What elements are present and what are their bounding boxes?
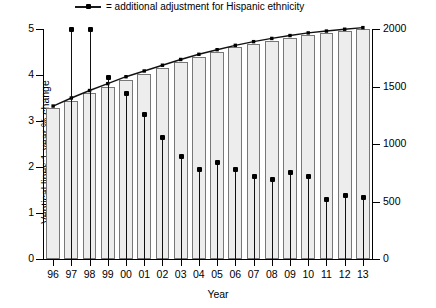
x-axis-tick: [53, 260, 54, 266]
one-year-change-dot: [270, 177, 275, 182]
one-year-change-line: [308, 176, 309, 259]
y-axis-left-tick: [36, 167, 43, 168]
one-year-change-line: [363, 197, 364, 259]
y-axis-right-tick: [373, 202, 380, 203]
one-year-change-line: [254, 176, 255, 259]
y-axis-left-tick: [36, 29, 43, 30]
one-year-change-dot: [324, 197, 329, 202]
x-axis-tick: [217, 260, 218, 266]
one-year-change-dot: [88, 27, 93, 32]
adjustment-line-path: [53, 28, 363, 106]
adjustment-line-dot: [124, 75, 127, 78]
one-year-change-line: [199, 169, 200, 259]
one-year-change-line: [108, 77, 109, 259]
one-year-change-line: [90, 29, 91, 259]
x-axis-line: [36, 259, 380, 260]
one-year-change-line: [162, 137, 163, 259]
adjustment-line-dot: [361, 26, 364, 29]
one-year-change-dot: [197, 167, 202, 172]
adjustment-line-dot: [325, 29, 328, 32]
x-axis-tick: [290, 260, 291, 266]
y-axis-left-tick-label: 5: [0, 23, 34, 33]
legend-label: = additional adjustment for Hispanic eth…: [106, 1, 304, 13]
one-year-change-line: [126, 93, 127, 259]
y-axis-right-tick: [373, 29, 380, 30]
x-axis-tick: [126, 260, 127, 266]
legend-line-dot-icon: [75, 2, 101, 12]
y-axis-left-tick-label: 1: [0, 207, 34, 217]
x-axis-tick: [90, 260, 91, 266]
one-year-change-line: [345, 195, 346, 259]
x-axis-tick: [254, 260, 255, 266]
x-axis-tick: [181, 260, 182, 266]
one-year-change-dot: [124, 91, 129, 96]
x-axis-tick: [272, 260, 273, 266]
one-year-change-line: [144, 114, 145, 259]
y-axis-right-tick-label: 2000: [383, 23, 423, 33]
y-axis-left-tick-label: 4: [0, 69, 34, 79]
adjustment-line-dot: [343, 28, 346, 31]
y-axis-right-tick: [373, 144, 380, 145]
y-axis-right-tick-label: 500: [383, 196, 423, 206]
adjustment-line-dot: [215, 48, 218, 51]
one-year-change-dot: [306, 174, 311, 179]
adjustment-line-dot: [179, 58, 182, 61]
x-axis-tick-label: 13: [351, 268, 375, 280]
plot-area: [44, 29, 372, 259]
x-axis-tick: [144, 260, 145, 266]
one-year-change-dot: [343, 193, 348, 198]
y-axis-right-tick-label: 0: [383, 253, 423, 263]
adjustment-line-dot: [307, 31, 310, 34]
y-axis-left-tick-label: 0: [0, 253, 34, 263]
x-axis-title: Year: [0, 288, 436, 300]
one-year-change-dot: [288, 170, 293, 175]
x-axis-tick: [235, 260, 236, 266]
x-axis-tick: [363, 260, 364, 266]
x-axis-tick: [71, 260, 72, 266]
adjustment-line-dot: [143, 69, 146, 72]
adjustment-line-dot: [161, 64, 164, 67]
one-year-change-dot: [142, 112, 147, 117]
one-year-change-dot: [361, 195, 366, 200]
adjustment-line-dot: [51, 104, 54, 107]
y-axis-left-tick: [36, 259, 43, 260]
x-axis-tick: [162, 260, 163, 266]
y-axis-right-tick: [373, 87, 380, 88]
one-year-change-dot: [233, 167, 238, 172]
one-year-change-line: [235, 169, 236, 259]
adjustment-line-dot: [252, 40, 255, 43]
y-axis-right-tick-label: 1000: [383, 138, 423, 148]
adjustment-line-dot: [234, 44, 237, 47]
y-axis-left-tick-label: 3: [0, 115, 34, 125]
one-year-change-dot: [179, 154, 184, 159]
chart-figure: = additional adjustment for Hispanic eth…: [0, 0, 436, 308]
hispanic-adjustment-line: [44, 29, 372, 259]
y-axis-left-tick: [36, 121, 43, 122]
one-year-change-dot: [106, 75, 111, 80]
x-axis-tick: [108, 260, 109, 266]
adjustment-line-dot: [270, 37, 273, 40]
y-axis-right-tick-label: 1500: [383, 81, 423, 91]
one-year-change-line: [326, 199, 327, 259]
one-year-change-dot: [160, 135, 165, 140]
adjustment-line-dot: [288, 34, 291, 37]
one-year-change-line: [71, 29, 72, 259]
one-year-change-dot: [69, 27, 74, 32]
y-axis-right-tick: [373, 259, 380, 260]
y-axis-left-tick: [36, 75, 43, 76]
y-axis-left-tick-label: 2: [0, 161, 34, 171]
one-year-change-dot: [215, 160, 220, 165]
one-year-change-line: [181, 156, 182, 260]
one-year-change-line: [290, 172, 291, 259]
chart-legend: = additional adjustment for Hispanic eth…: [75, 1, 304, 13]
one-year-change-line: [217, 162, 218, 259]
x-axis-tick: [345, 260, 346, 266]
y-axis-left-tick: [36, 213, 43, 214]
x-axis-tick: [326, 260, 327, 266]
adjustment-line-dot: [197, 53, 200, 56]
x-axis-tick: [199, 260, 200, 266]
one-year-change-dot: [252, 174, 257, 179]
one-year-change-line: [272, 179, 273, 260]
x-axis-tick: [308, 260, 309, 266]
